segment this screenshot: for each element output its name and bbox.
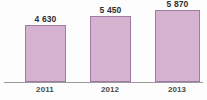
bar-group-2013: 5 870 (155, 0, 200, 82)
bar-chart: 4 630 5 450 5 870 2011 2012 2013 (0, 0, 207, 100)
bar-value-label: 5 450 (100, 5, 122, 15)
bar-group-2012: 5 450 (90, 0, 131, 82)
bar-rect-2013[interactable] (155, 10, 200, 82)
x-axis-label-2013: 2013 (168, 85, 186, 94)
bar-rect-2011[interactable] (25, 25, 66, 82)
bar-group-2011: 4 630 (25, 0, 66, 82)
bar-value-label: 4 630 (35, 14, 57, 24)
bar-rect-2012[interactable] (90, 16, 131, 82)
x-axis-label-2011: 2011 (36, 85, 54, 94)
x-axis-label-2012: 2012 (101, 85, 119, 94)
bar-value-label: 5 870 (167, 0, 189, 9)
x-axis-baseline (4, 82, 203, 83)
plot-area: 4 630 5 450 5 870 (0, 0, 207, 82)
